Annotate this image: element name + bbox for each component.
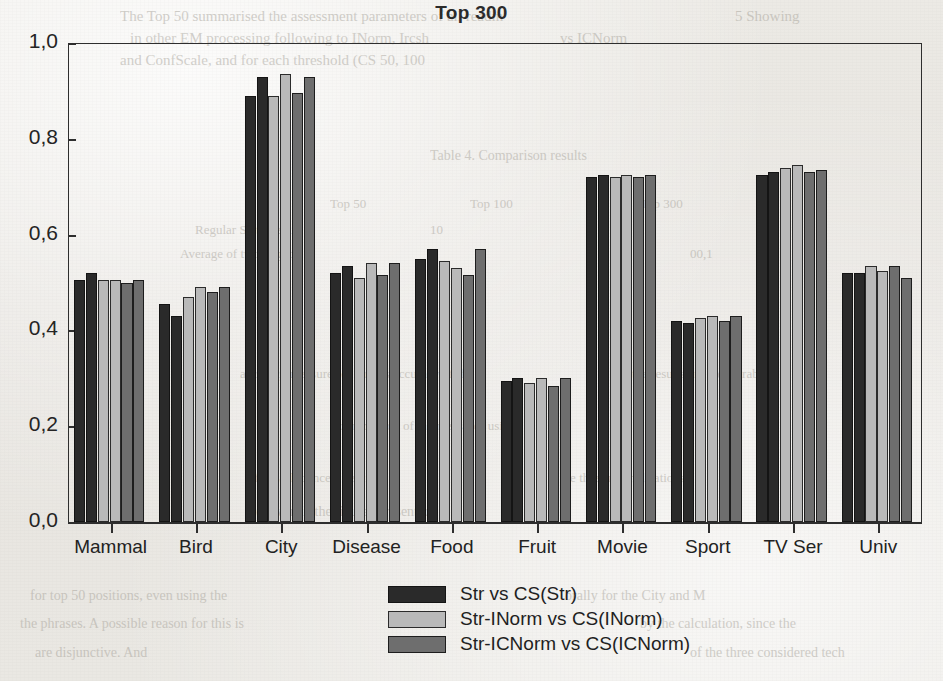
bar-disease-s0-1 bbox=[342, 266, 353, 522]
x-tick-mark bbox=[452, 524, 454, 533]
bar-fruit-s2-0 bbox=[548, 386, 559, 523]
bar-bird-s1-0 bbox=[183, 297, 194, 522]
legend-item-2[interactable]: Str-ICNorm vs CS(ICNorm) bbox=[388, 633, 690, 655]
bar-city-s0-1 bbox=[257, 77, 268, 522]
y-tick-label: 0,4 bbox=[0, 316, 58, 340]
bar-group-univ bbox=[842, 43, 913, 522]
x-tick-mark bbox=[622, 524, 624, 533]
y-tick-label: 0,2 bbox=[0, 412, 58, 436]
bar-mammal-s2-0 bbox=[121, 283, 132, 523]
x-tick-mark bbox=[111, 524, 113, 533]
bar-sport-s1-0 bbox=[695, 318, 706, 522]
x-tick-mark bbox=[281, 524, 283, 533]
bar-group-sport bbox=[671, 43, 742, 522]
x-tick-mark bbox=[367, 524, 369, 533]
bar-movie-s0-1 bbox=[598, 175, 609, 522]
bar-mammal-s0-1 bbox=[86, 273, 97, 522]
bar-food-s0-0 bbox=[415, 259, 426, 522]
bar-sport-s0-1 bbox=[683, 323, 694, 522]
bar-group-fruit bbox=[501, 43, 572, 522]
x-tick-mark bbox=[708, 524, 710, 533]
bar-fruit-s0-0 bbox=[501, 381, 512, 522]
bar-univ-s2-1 bbox=[901, 278, 912, 522]
bar-mammal-s1-1 bbox=[110, 280, 121, 522]
y-tick-label: 0,0 bbox=[0, 508, 58, 532]
legend-item-1[interactable]: Str-INorm vs CS(INorm) bbox=[388, 608, 690, 630]
bar-tv-ser-s2-0 bbox=[804, 172, 815, 522]
bar-city-s1-0 bbox=[268, 96, 279, 522]
bar-food-s2-1 bbox=[475, 249, 486, 522]
bar-bird-s0-1 bbox=[171, 316, 182, 522]
bar-mammal-s2-1 bbox=[133, 280, 144, 522]
legend-swatch-0 bbox=[388, 586, 446, 603]
bar-mammal-s1-0 bbox=[98, 280, 109, 522]
bar-fruit-s1-1 bbox=[536, 378, 547, 522]
bar-tv-ser-s2-1 bbox=[816, 170, 827, 522]
bar-disease-s0-0 bbox=[330, 273, 341, 522]
bar-food-s2-0 bbox=[463, 275, 474, 522]
x-tick-mark bbox=[196, 524, 198, 533]
bar-disease-s1-0 bbox=[354, 278, 365, 522]
bar-tv-ser-s1-0 bbox=[780, 168, 791, 522]
bar-tv-ser-s0-1 bbox=[768, 172, 779, 522]
y-tick-label: 0,6 bbox=[0, 221, 58, 245]
bar-food-s1-0 bbox=[439, 261, 450, 522]
bar-chart: Top 300 0,00,20,40,60,81,0 MammalBirdCit… bbox=[0, 0, 943, 681]
bar-disease-s2-0 bbox=[377, 275, 388, 522]
bar-fruit-s0-1 bbox=[512, 378, 523, 522]
bar-bird-s2-1 bbox=[219, 287, 230, 522]
bar-movie-s1-1 bbox=[621, 175, 632, 522]
bar-city-s1-1 bbox=[280, 74, 291, 522]
bar-movie-s2-0 bbox=[633, 177, 644, 522]
legend-swatch-1 bbox=[388, 611, 446, 628]
bar-movie-s1-0 bbox=[610, 177, 621, 522]
bar-sport-s2-1 bbox=[730, 316, 741, 522]
bar-group-movie bbox=[586, 43, 657, 522]
bar-disease-s2-1 bbox=[389, 263, 400, 522]
axis-frame-left bbox=[68, 43, 69, 523]
bar-group-bird bbox=[159, 43, 230, 522]
legend-label-0: Str vs CS(Str) bbox=[460, 583, 577, 605]
bar-tv-ser-s1-1 bbox=[792, 165, 803, 522]
bar-fruit-s2-1 bbox=[560, 378, 571, 522]
bar-bird-s2-0 bbox=[207, 292, 218, 522]
x-tick-label-univ: Univ bbox=[818, 536, 938, 558]
bar-bird-s0-0 bbox=[159, 304, 170, 522]
axis-frame-right bbox=[921, 43, 922, 523]
bar-food-s1-1 bbox=[451, 268, 462, 522]
bar-univ-s0-1 bbox=[854, 273, 865, 522]
bar-group-tv-ser bbox=[756, 43, 827, 522]
x-tick-mark bbox=[878, 524, 880, 533]
bar-sport-s0-0 bbox=[671, 321, 682, 522]
bar-univ-s1-1 bbox=[877, 271, 888, 522]
bar-univ-s2-0 bbox=[889, 266, 900, 522]
bar-univ-s1-0 bbox=[865, 266, 876, 522]
chart-title: Top 300 bbox=[0, 2, 943, 24]
chart-legend: Str vs CS(Str)Str-INorm vs CS(INorm)Str-… bbox=[388, 583, 690, 658]
bar-food-s0-1 bbox=[427, 249, 438, 522]
bar-sport-s1-1 bbox=[707, 316, 718, 522]
legend-label-2: Str-ICNorm vs CS(ICNorm) bbox=[460, 633, 690, 655]
bar-fruit-s1-0 bbox=[524, 383, 535, 522]
legend-label-1: Str-INorm vs CS(INorm) bbox=[460, 608, 663, 630]
bar-group-food bbox=[415, 43, 486, 522]
bar-movie-s0-0 bbox=[586, 177, 597, 522]
bar-bird-s1-1 bbox=[195, 287, 206, 522]
legend-item-0[interactable]: Str vs CS(Str) bbox=[388, 583, 690, 605]
x-tick-mark bbox=[793, 524, 795, 533]
bar-movie-s2-1 bbox=[645, 175, 656, 522]
bar-group-disease bbox=[330, 43, 401, 522]
bar-univ-s0-0 bbox=[842, 273, 853, 522]
bar-mammal-s0-0 bbox=[74, 280, 85, 522]
bar-city-s2-0 bbox=[292, 93, 303, 522]
bar-city-s2-1 bbox=[304, 77, 315, 522]
bar-disease-s1-1 bbox=[366, 263, 377, 522]
legend-swatch-2 bbox=[388, 636, 446, 653]
x-tick-mark bbox=[537, 524, 539, 533]
bar-sport-s2-0 bbox=[719, 321, 730, 522]
bar-city-s0-0 bbox=[245, 96, 256, 522]
bar-tv-ser-s0-0 bbox=[756, 175, 767, 522]
y-tick-label: 1,0 bbox=[0, 29, 58, 53]
bar-group-city bbox=[245, 43, 316, 522]
bar-group-mammal bbox=[74, 43, 145, 522]
